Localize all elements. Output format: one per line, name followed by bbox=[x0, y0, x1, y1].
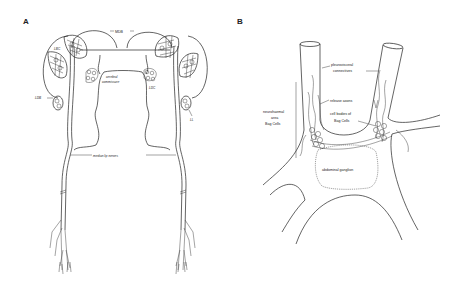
release-axons-label: release axons bbox=[330, 99, 353, 103]
mdb-left-lobe bbox=[72, 31, 117, 48]
right-outer-arc bbox=[188, 36, 207, 98]
lower-arch bbox=[296, 195, 402, 244]
right-nerve-endings bbox=[176, 220, 195, 274]
neurohaemal-label-3: Bag Cells bbox=[265, 122, 281, 126]
pleurovisceral-label-2: connectives bbox=[333, 69, 352, 73]
lbc-label: LBC bbox=[54, 47, 61, 51]
right-ll bbox=[181, 96, 191, 110]
left-bag-cells bbox=[309, 127, 324, 148]
cerebral-label-1: cerebral bbox=[106, 75, 118, 79]
right-connective bbox=[142, 72, 170, 150]
cell-bodies-label-2: Bag Cells bbox=[334, 119, 350, 123]
cerebral-label-2: commissure bbox=[102, 80, 119, 84]
release-axons bbox=[300, 70, 408, 156]
figure-canvas: A MDB LBC bbox=[0, 0, 459, 301]
neurohaemal-label-1: neurohaemal bbox=[263, 110, 284, 114]
mdb-label: MDB bbox=[115, 30, 124, 34]
left-ldc-cluster bbox=[86, 68, 98, 82]
panel-a: A MDB LBC bbox=[23, 17, 207, 274]
ldc-label: LDC bbox=[149, 86, 156, 90]
cerebral-commissure bbox=[104, 71, 142, 73]
left-nerve-endings bbox=[50, 220, 71, 274]
left-ldb bbox=[53, 96, 63, 110]
median-lip-nerves-label: median lip nerves bbox=[93, 154, 118, 158]
abdominal-ganglion-label: abdominal ganglion bbox=[322, 168, 353, 172]
right-lower-outer bbox=[391, 134, 418, 230]
left-lower-outer bbox=[263, 130, 304, 185]
mdb-right-lobe bbox=[127, 32, 172, 48]
right-connective-tube bbox=[370, 45, 403, 120]
left-tube-top bbox=[300, 42, 320, 47]
panel-a-label: A bbox=[23, 17, 29, 26]
ll-label: LL bbox=[190, 118, 194, 122]
panel-b: B abdominal ganglion bbox=[237, 17, 440, 244]
right-lbc-cluster bbox=[155, 36, 198, 78]
right-tube-top bbox=[383, 42, 404, 50]
left-branch bbox=[270, 184, 305, 232]
pleurovisceral-label-1: pleurovisceral bbox=[331, 63, 353, 67]
left-connective-tube bbox=[300, 44, 320, 130]
cell-bodies-label-1: cell bodies of bbox=[330, 112, 351, 116]
neurohaemal-label-2: area bbox=[271, 116, 278, 120]
left-lbc-cluster bbox=[48, 35, 87, 78]
ldb-label: LDB bbox=[35, 96, 42, 100]
right-lateral-nerve bbox=[388, 115, 440, 134]
panel-b-label: B bbox=[237, 17, 243, 26]
left-connective bbox=[74, 72, 104, 150]
